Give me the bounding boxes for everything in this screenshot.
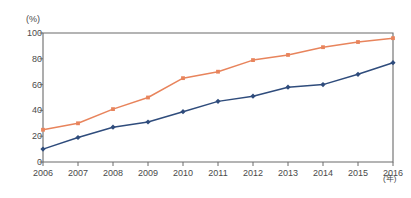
data-point-marker: [215, 99, 220, 104]
data-point-marker: [181, 76, 185, 80]
data-point-marker: [40, 147, 45, 152]
data-point-marker: [41, 128, 45, 132]
data-point-marker: [286, 53, 290, 57]
data-point-marker: [180, 109, 185, 114]
data-point-marker: [285, 85, 290, 90]
data-point-marker: [356, 40, 360, 44]
data-point-marker: [145, 119, 150, 124]
data-point-marker: [111, 107, 115, 111]
data-point-marker: [391, 36, 395, 40]
data-point-marker: [321, 45, 325, 49]
data-point-marker: [320, 82, 325, 87]
series-line: [43, 63, 393, 149]
series-line: [43, 38, 393, 130]
plot-frame: [43, 33, 393, 162]
data-point-marker: [110, 125, 115, 130]
data-point-marker: [76, 121, 80, 125]
plot-area: [0, 0, 411, 198]
data-point-marker: [355, 72, 360, 77]
line-chart: (%) (年) 020406080100 2006200720082009201…: [0, 0, 411, 198]
data-point-marker: [146, 96, 150, 100]
data-point-marker: [250, 94, 255, 99]
data-point-marker: [75, 135, 80, 140]
data-point-marker: [251, 58, 255, 62]
data-point-marker: [390, 60, 395, 65]
data-point-marker: [216, 70, 220, 74]
